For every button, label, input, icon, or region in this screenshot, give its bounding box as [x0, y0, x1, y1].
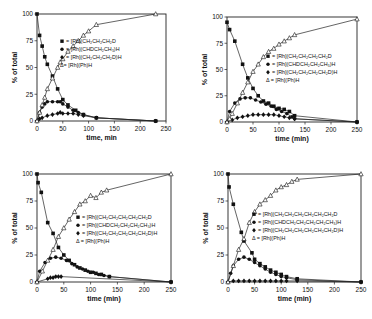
legend-entry: = [Rh](CH₂CH₂CH₂CH₂D: [272, 53, 332, 59]
legend-entry: = [Rh](CH₂CH₂CH₂D: [66, 38, 116, 44]
x-tick-label: 0: [225, 126, 229, 133]
series-line: [37, 14, 156, 121]
diamond-marker-icon: [253, 279, 257, 284]
x-tick-label: 250: [166, 286, 177, 293]
diamond-marker-icon: [263, 279, 267, 284]
x-tick-label: 200: [326, 126, 337, 133]
square-marker-icon: [40, 44, 44, 48]
x-tick-label: 0: [226, 286, 230, 293]
circle-marker-icon: [46, 100, 50, 104]
square-marker-icon: [266, 55, 269, 58]
legend-entry: = [Rh](CHDCH₂CH₂CH₂CH₃)H: [82, 222, 155, 228]
triangle-marker-icon: [263, 198, 267, 202]
diamond-marker-icon: [282, 114, 286, 119]
diamond-marker-icon: [66, 111, 70, 116]
y-tick-label: 75: [216, 40, 224, 47]
x-tick-label: 150: [300, 126, 311, 133]
x-tick-label: 250: [356, 286, 367, 293]
square-marker-icon: [51, 232, 55, 236]
triangle-marker-icon: [62, 226, 66, 230]
x-tick-label: 250: [161, 125, 172, 132]
square-marker-icon: [35, 12, 39, 16]
legend: = [Rh](CH₂CH₂CH₂CH₂CH₂CH₂D= [Rh](CHDCH₂C…: [252, 211, 343, 241]
y-axis-label: % of total: [11, 212, 18, 244]
x-axis-label: time (min): [275, 135, 308, 143]
x-tick-label: 0: [35, 286, 39, 293]
square-marker-icon: [43, 55, 47, 59]
x-tick-label: 150: [109, 125, 120, 132]
square-marker-icon: [253, 258, 257, 262]
circle-marker-icon: [86, 269, 90, 273]
triangle-marker-icon: [247, 220, 251, 224]
square-marker-icon: [38, 34, 42, 38]
square-marker-icon: [226, 172, 230, 176]
circle-marker-icon: [60, 48, 63, 51]
circle-marker-icon: [275, 108, 279, 112]
legend-entry: Δ = [Rh](Ph)H: [266, 77, 300, 83]
triangle-marker-icon: [266, 49, 270, 53]
circle-marker-icon: [51, 100, 55, 104]
diamond-marker-icon: [247, 279, 251, 284]
legend-entry: Δ= [Rh](Ph)H: [60, 62, 92, 68]
y-tick-label: 75: [217, 197, 225, 204]
y-tick-label: 75: [26, 37, 34, 44]
square-marker-icon: [240, 231, 244, 235]
legend-entry: Δ = [Rh](Ph)H: [76, 238, 110, 244]
plot-frame: [37, 174, 171, 282]
legend: = [Rh](CH₂CH₂CH₂CH₂CH₂D= [Rh](CHDCH₂CH₂C…: [76, 214, 157, 244]
circle-marker-icon: [269, 104, 273, 108]
diamond-marker-icon: [258, 279, 262, 284]
figure-canvas: 0255075100050100150200250time, min% of t…: [0, 0, 372, 319]
y-tick-label: 0: [29, 278, 33, 285]
square-marker-icon: [60, 40, 63, 43]
triangle-marker-icon: [51, 247, 55, 251]
diamond-marker-icon: [277, 113, 281, 118]
triangle-marker-icon: [284, 182, 288, 186]
circle-marker-icon: [97, 273, 101, 277]
legend-entry: = [Rh](CH₂CH₂CH₂CH₂CH₂CH₂D)H: [258, 227, 343, 233]
y-tick-label: 50: [216, 66, 224, 73]
triangle-marker-icon: [287, 36, 291, 40]
circle-marker-icon: [66, 105, 70, 109]
triangle-marker-icon: [78, 202, 82, 206]
square-marker-icon: [39, 191, 43, 195]
circle-marker-icon: [75, 265, 79, 269]
diamond-marker-icon: [251, 112, 255, 117]
legend-entry: = [Rh](CH₂CH₂CH₂CH₂CH₂CH₂D: [258, 211, 338, 217]
series-line: [37, 277, 171, 282]
y-tick-label: 25: [26, 251, 34, 258]
circle-marker-icon: [242, 255, 246, 259]
circle-marker-icon: [54, 255, 58, 259]
square-marker-icon: [241, 62, 245, 66]
circle-marker-icon: [274, 273, 278, 277]
diamond-marker-icon: [45, 113, 49, 118]
y-tick-label: 25: [26, 91, 34, 98]
legend-entry: = [Rh](CH₂CH₂CH₂D)H: [66, 54, 122, 60]
diamond-marker-icon: [252, 228, 256, 232]
circle-marker-icon: [81, 267, 85, 271]
x-tick-label: 100: [83, 125, 94, 132]
square-marker-icon: [252, 213, 255, 216]
x-tick-label: 100: [274, 126, 285, 133]
circle-marker-icon: [228, 110, 232, 114]
x-axis-label: time, min: [86, 134, 117, 142]
legend-entry: Δ = [Rh](Ph)H: [252, 235, 286, 241]
x-tick-label: 250: [352, 126, 363, 133]
x-tick-label: 150: [112, 286, 123, 293]
y-axis-label: % of total: [202, 212, 209, 244]
legend-entry: = [Rh](CHDCH₂CH₂CH₂CH₂CH₃)H: [258, 219, 341, 225]
x-tick-label: 150: [302, 286, 313, 293]
y-tick-label: 25: [216, 92, 224, 99]
square-marker-icon: [56, 87, 60, 91]
x-tick-label: 50: [59, 125, 67, 132]
series-line: [37, 174, 171, 282]
circle-marker-icon: [65, 259, 69, 263]
circle-marker-icon: [259, 100, 263, 104]
chart-top-left: 0255075100050100150200250time, min% of t…: [11, 10, 172, 142]
x-tick-label: 50: [251, 286, 259, 293]
x-tick-label: 100: [85, 286, 96, 293]
diamond-marker-icon: [76, 231, 80, 235]
y-tick-label: 0: [219, 118, 223, 125]
legend-entry: = [Rh](CH₂CH₂CH₂CH₂CH₂D)H: [82, 230, 157, 236]
diamond-marker-icon: [59, 274, 63, 279]
